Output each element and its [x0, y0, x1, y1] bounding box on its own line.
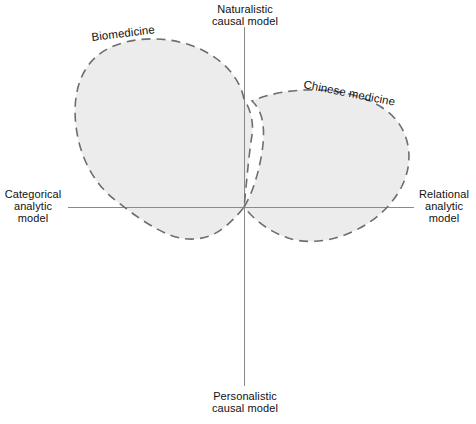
concept-diagram: Biomedicine Chinese medicine Naturalisti…	[0, 0, 476, 424]
axis-label-categorical-line2: analytic	[14, 200, 52, 212]
axis-label-personalistic-line1: Personalistic	[213, 390, 277, 402]
axis-label-naturalistic-line1: Naturalistic	[217, 3, 273, 15]
axis-label-categorical-line3: model	[18, 212, 48, 224]
axis-label-relational-line3: model	[429, 212, 459, 224]
region-fills	[75, 39, 409, 241]
axis-label-naturalistic-line2: causal model	[212, 15, 278, 27]
axis-label-relational-line2: analytic	[425, 200, 463, 212]
biomedicine-region-fill	[75, 39, 252, 239]
axis-label-relational-line1: Relational	[419, 188, 469, 200]
axis-label-categorical-line1: Categorical	[5, 188, 62, 200]
diagram-canvas: Biomedicine Chinese medicine Naturalisti…	[0, 0, 476, 424]
chinese-medicine-region-fill	[244, 90, 409, 242]
axis-label-personalistic-line2: causal model	[212, 402, 278, 414]
